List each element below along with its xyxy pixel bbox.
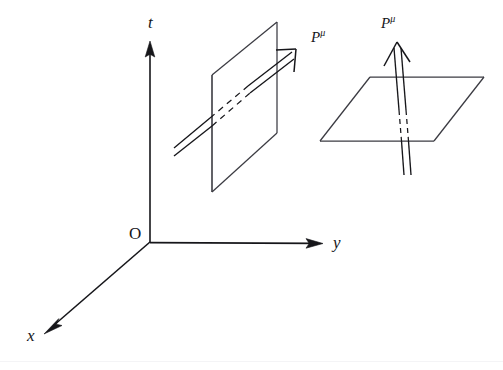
vertical-plane-edge-bottom xyxy=(212,133,277,192)
vector-vertical-arrowhead-barb-right xyxy=(397,42,410,62)
four-momentum-label-oblique: Pμ xyxy=(311,28,325,45)
vector-oblique-rail-b-tail xyxy=(174,126,212,156)
t-axis xyxy=(145,41,155,242)
vector-oblique-rail-a-tail xyxy=(174,118,210,148)
four-momentum-label-oblique-base: P xyxy=(311,29,320,45)
diagram-canvas xyxy=(0,0,503,370)
x-axis-label: x xyxy=(27,327,35,344)
four-momentum-label-vertical-superscript: μ xyxy=(390,13,395,24)
vector-vertical-rail-b-hidden xyxy=(406,110,409,141)
vector-oblique-arrowhead-barb-right xyxy=(294,49,296,72)
vector-oblique-rail-a-hidden xyxy=(210,86,248,118)
four-momentum-vector-oblique xyxy=(174,49,296,156)
vector-vertical-rail-a-tail xyxy=(402,141,405,175)
t-axis-label: t xyxy=(148,14,153,31)
vector-oblique-rail-a-head xyxy=(248,52,292,86)
vertical-plane-edge-top xyxy=(212,22,277,75)
four-momentum-label-oblique-superscript: μ xyxy=(320,27,325,38)
horizontal-plane-edge-right xyxy=(434,77,484,141)
four-momentum-label-vertical-base: P xyxy=(381,15,390,31)
vector-vertical-rail-b-tail xyxy=(409,141,412,175)
vector-vertical-rail-b-upper xyxy=(401,48,406,110)
scan-artifact-line xyxy=(0,361,503,362)
vector-oblique-arrowhead-barb-left xyxy=(276,49,296,50)
vector-vertical-rail-a-hidden xyxy=(399,110,402,141)
y-axis-label: y xyxy=(333,234,341,251)
vector-oblique-rail-b-hidden xyxy=(212,93,250,126)
spacelike-plane-panel xyxy=(174,22,296,192)
horizontal-plane-edge-left xyxy=(320,77,370,141)
x-axis-line xyxy=(53,242,150,326)
axes-group xyxy=(44,41,323,334)
timelike-plane-panel xyxy=(320,42,484,175)
vector-vertical-rail-a-upper xyxy=(394,48,399,110)
y-axis xyxy=(150,239,323,249)
origin-label: O xyxy=(129,225,141,242)
x-axis xyxy=(44,242,150,334)
four-momentum-label-vertical: Pμ xyxy=(381,14,395,31)
vector-oblique-rail-b-head xyxy=(250,59,294,93)
horizontal-plane xyxy=(320,77,484,141)
four-momentum-vector-vertical xyxy=(384,42,411,175)
vertical-plane xyxy=(212,22,277,192)
spacetime-diagram: t y x O Pμ Pμ xyxy=(0,0,503,370)
y-axis-line xyxy=(150,243,314,244)
